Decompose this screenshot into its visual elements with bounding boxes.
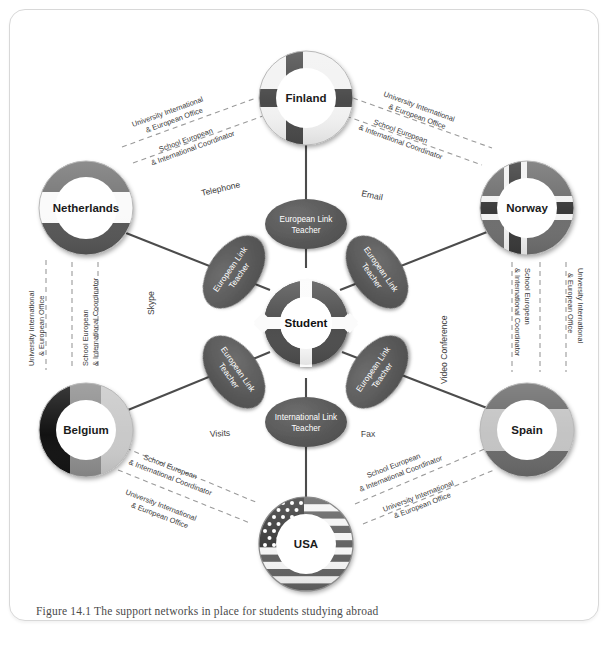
student-center-label: Student: [285, 317, 328, 329]
link-teacher-top-line1: European Link: [280, 215, 334, 224]
channel-label-visits: Visits: [209, 428, 230, 439]
country-node-usa[interactable]: USA: [259, 497, 353, 591]
link-teacher-top[interactable]: European Link Teacher: [265, 199, 347, 249]
support-norway-school-2: & International Coordinator: [513, 268, 522, 357]
country-node-belgium[interactable]: Belgium: [39, 383, 133, 477]
support-netherlands-univ-1: University International: [27, 290, 36, 366]
channel-label-video-conference: Video Conference: [439, 315, 449, 384]
support-group-spain-univ: University International & European Offi…: [381, 478, 458, 523]
support-group-norway-school: School European & International Coordina…: [513, 268, 532, 357]
channel-label-skype: Skype: [146, 291, 156, 315]
country-label-finland: Finland: [286, 92, 327, 104]
support-group-netherlands-univ: University International & European Offi…: [27, 290, 46, 366]
country-node-finland[interactable]: Finland: [259, 51, 353, 145]
country-label-netherlands: Netherlands: [53, 202, 119, 214]
country-label-belgium: Belgium: [63, 424, 108, 436]
support-group-belgium-school: School European & International Coordina…: [127, 448, 217, 498]
link-teacher-lower-left[interactable]: European Link Teacher: [190, 324, 278, 420]
link-teacher-top-line2: Teacher: [291, 226, 320, 235]
support-norway-univ-1: University International: [576, 268, 585, 344]
country-node-netherlands[interactable]: Netherlands: [39, 161, 133, 255]
country-label-spain: Spain: [511, 424, 542, 436]
link-teacher-upper-left[interactable]: European Link Teacher: [190, 224, 278, 320]
link-teacher-lower-right[interactable]: European Link Teacher: [333, 324, 421, 420]
country-node-spain[interactable]: Spain: [480, 383, 574, 477]
link-teacher-upper-right[interactable]: European Link Teacher: [333, 224, 421, 320]
figure-caption: Figure 14.1 The support networks in plac…: [36, 605, 378, 617]
support-group-netherlands-school: School European & International Coordina…: [81, 277, 100, 366]
support-group-norway-univ: University International & European Offi…: [566, 268, 585, 344]
support-norway-univ-2: & European Office: [566, 273, 575, 333]
link-teacher-bottom-line2: Teacher: [291, 424, 320, 433]
support-netherlands-school-2: & International Coordinator: [91, 277, 100, 366]
support-network-diagram: Student European Link Teacher European L…: [0, 0, 612, 647]
country-node-norway[interactable]: Norway: [480, 161, 574, 255]
link-teacher-bottom-line1: International Link: [275, 413, 338, 422]
country-label-usa: USA: [294, 538, 318, 550]
support-netherlands-school-1: School European: [81, 309, 90, 366]
support-norway-school-1: School European: [523, 268, 532, 325]
country-label-norway: Norway: [506, 202, 548, 214]
channel-label-telephone: Telephone: [200, 179, 241, 198]
channel-label-email: Email: [361, 188, 384, 202]
support-netherlands-univ-2: & European Office: [37, 296, 46, 356]
student-hub[interactable]: Student: [254, 279, 359, 367]
support-group-belgium-univ: University International & European Offi…: [121, 487, 198, 532]
link-teacher-bottom[interactable]: International Link Teacher: [265, 397, 347, 447]
channel-label-fax: Fax: [361, 428, 376, 439]
